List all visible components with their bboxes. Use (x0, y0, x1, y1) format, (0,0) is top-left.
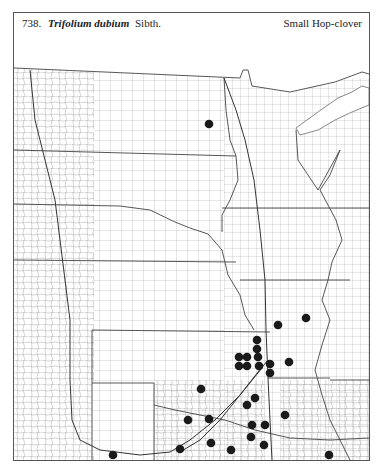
occurrence-dot (109, 451, 118, 460)
occurrence-dot (207, 439, 216, 448)
map-body (14, 60, 370, 462)
occurrence-dot (197, 385, 206, 394)
occurrence-dot (247, 433, 256, 442)
occurrence-dot (261, 421, 270, 430)
occurrence-dot (302, 314, 311, 323)
occurrence-dot (253, 345, 262, 354)
occurrence-dot (243, 353, 252, 362)
occurrence-dot (255, 362, 264, 371)
occurrence-dot (266, 369, 275, 378)
occurrence-dot (274, 321, 283, 330)
occurrence-dot (243, 401, 252, 410)
occurrence-dot (205, 120, 214, 129)
occurrence-dot (325, 451, 334, 460)
occurrence-dot (184, 416, 193, 425)
occurrence-dot (248, 421, 257, 430)
occurrence-dot (253, 336, 262, 345)
occurrence-dot (254, 353, 263, 362)
occurrence-dot (266, 360, 275, 369)
occurrence-dot (251, 394, 260, 403)
occurrence-dot (205, 415, 214, 424)
occurrence-dot (176, 445, 185, 454)
occurrence-dot (227, 446, 236, 455)
occurrence-dot (281, 411, 290, 420)
occurrence-dot (235, 353, 244, 362)
occurrence-dot (260, 441, 269, 450)
occurrence-dot (243, 362, 252, 371)
distribution-map (0, 0, 380, 469)
occurrence-dot (285, 358, 294, 367)
occurrence-dot (235, 362, 244, 371)
